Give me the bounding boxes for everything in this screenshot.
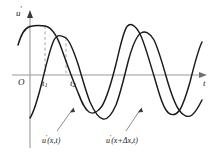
tick-label-t1-sub: 1 — [45, 81, 48, 88]
y-axis — [27, 10, 33, 148]
wave-curve-2 — [30, 32, 202, 119]
y-axis-label: u' — [16, 6, 22, 18]
tick-label-t2: t2 — [70, 79, 76, 89]
y-axis-label-prime: ' — [21, 5, 22, 14]
tick-label-t2-sub: 2 — [73, 81, 76, 88]
curve-2-label-args: (x+Δx,t) — [111, 136, 138, 145]
tick-label-t1: t1 — [42, 79, 48, 89]
curve-1-label: u'(x,t) — [42, 134, 60, 145]
wave-diagram: u' t O t1 t2 u'(x,t) u'(x+Δx,t) — [0, 0, 218, 158]
origin-label: O — [18, 78, 25, 87]
x-axis-label: t — [203, 79, 206, 88]
leader-curve-2 — [126, 108, 143, 132]
curve-1-label-args: (x,t) — [47, 136, 60, 145]
y-axis-arrow-icon — [27, 10, 33, 18]
leader-curve-1 — [57, 108, 75, 132]
curve-2-label: u'(x+Δx,t) — [106, 134, 138, 145]
